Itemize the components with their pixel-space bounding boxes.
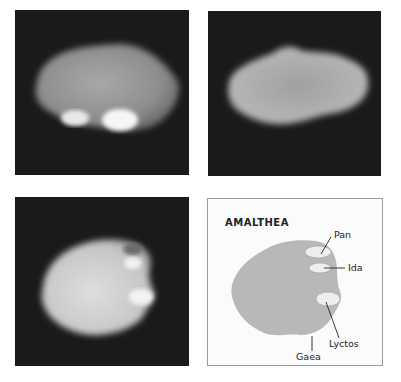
label-lyctos: Lyctos (329, 338, 359, 349)
amalthea-photo-1 (15, 10, 189, 175)
moon-image-3 (15, 197, 189, 366)
amalthea-photo-3 (15, 197, 189, 366)
label-gaea: Gaea (296, 351, 321, 362)
amalthea-map: AMALTHEA Pan Ida Lyctos Gaea (207, 198, 383, 366)
moon-image-1 (15, 10, 189, 175)
moon-image-2 (208, 11, 381, 176)
map-title: AMALTHEA (225, 217, 289, 228)
amalthea-photo-2 (208, 11, 381, 176)
label-pan: Pan (334, 229, 351, 240)
label-ida: Ida (348, 262, 363, 273)
